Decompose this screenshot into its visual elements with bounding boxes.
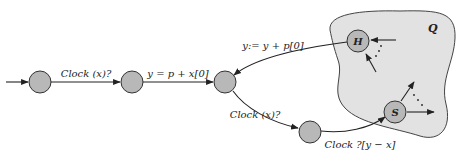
state-node-1 — [29, 71, 51, 93]
state-node-3 — [214, 71, 236, 93]
state-node-2 — [121, 71, 143, 93]
edge-label-h-n3: y:= y + p[0] — [241, 40, 304, 51]
node-h-label: H — [352, 36, 363, 47]
state-node-4 — [299, 121, 321, 143]
automaton-diagram: Q H S Clock (x)? y = p + x[0] y:= y + p[… — [0, 0, 460, 152]
edge-label-n4-s: Clock ?[y − x] — [325, 139, 396, 150]
region-q-label: Q — [428, 22, 438, 35]
edge-label-n1-n2: Clock (x)? — [61, 68, 112, 79]
edge-label-n2-n3: y = p + x[0] — [146, 68, 208, 79]
edge-label-n3-n4: Clock (x)? — [230, 109, 281, 120]
node-s-label: S — [391, 107, 398, 118]
